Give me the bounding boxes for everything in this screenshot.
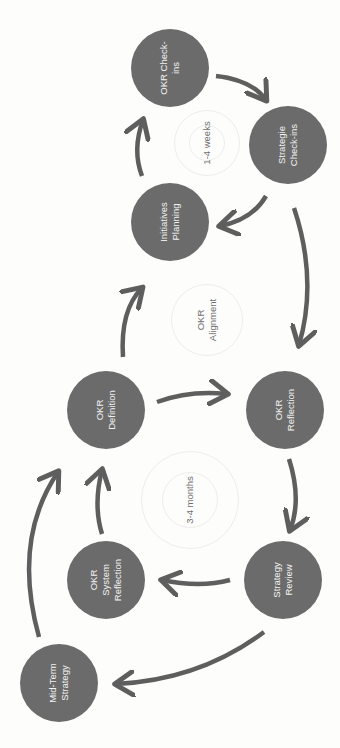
arrow-definition-to-reflection	[157, 393, 227, 402]
node-okr-definition: OKR Definition	[67, 371, 145, 449]
cycle-label-text: OKR Alignment	[195, 280, 219, 360]
node-okr-system-reflection: OKR System Reflection	[67, 541, 145, 619]
arrow-strategy-review-to-midterm	[116, 632, 264, 684]
cycle-label-text: 1-4 weeks	[201, 103, 213, 183]
arrow-system-reflection-to-definition	[98, 470, 103, 534]
node-okr-reflection: OKR Reflection	[246, 371, 324, 449]
arrow-reflection-to-strategy-review	[289, 459, 296, 530]
arrow-definition-to-initiatives	[123, 288, 142, 357]
cycle-label-quarterly: 3-4 months	[140, 450, 240, 550]
node-label: OKR Check- ins	[158, 33, 182, 103]
cycle-label-text: 3-4 months	[184, 460, 196, 540]
cycle-label-alignment: OKR Alignment	[167, 280, 247, 360]
arrow-strategie-to-okr-reflection	[294, 208, 307, 345]
node-strategy-review: Strategy Review	[244, 541, 322, 619]
arrow-initiatives-to-checkins	[137, 120, 143, 176]
node-label: OKR Reflection	[273, 375, 297, 445]
arrow-midterm-to-definition	[29, 472, 58, 637]
arrow-checkins-to-strategie	[216, 76, 266, 100]
node-label: Initiatives Planning	[158, 187, 182, 257]
node-label: Mid-Term Strategy	[47, 648, 71, 718]
arrow-strategy-review-to-system-reflection	[162, 580, 230, 584]
node-okr-check-ins: OKR Check- ins	[131, 29, 209, 107]
okr-cycle-diagram: 1-4 weeks OKR Alignment 3-4 months OKR C…	[0, 0, 340, 748]
node-label: OKR Definition	[94, 375, 118, 445]
arrow-strategie-to-initiatives	[220, 196, 266, 226]
node-label: OKR System Reflection	[88, 545, 124, 615]
node-mid-term-strategy: Mid-Term Strategy	[20, 644, 98, 722]
node-initiatives-planning: Initiatives Planning	[131, 183, 209, 261]
node-strategie-check-ins: Strategie Check-ins	[249, 106, 327, 184]
node-label: Strategie Check-ins	[276, 110, 300, 180]
cycle-label-weekly: 1-4 weeks	[167, 103, 247, 183]
node-label: Strategy Review	[271, 545, 295, 615]
